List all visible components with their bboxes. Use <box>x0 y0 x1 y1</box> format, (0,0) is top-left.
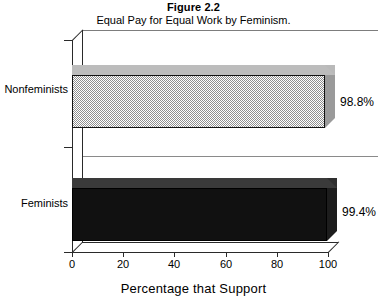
x-axis-label-20: 20 <box>103 258 143 270</box>
bar-feminists-front-face <box>72 188 327 241</box>
category-label-nonfeminists: Nonfeminists <box>2 83 68 95</box>
figure-chart: Figure 2.2 Equal Pay for Equal Work by F… <box>0 0 387 307</box>
plot-area: 98.8% 99.4% Nonfeminists Feminists 0 20 … <box>0 0 387 307</box>
x-axis-label-100: 100 <box>308 258 348 270</box>
bar-nonfeminists[interactable] <box>72 65 335 138</box>
x-axis-tick-100 <box>328 252 329 257</box>
bar-nonfeminists-top-face <box>72 65 335 75</box>
y-axis-tick-middle <box>64 147 72 148</box>
x-axis-label-40: 40 <box>154 258 194 270</box>
x-axis-tick-80 <box>277 252 278 257</box>
y-axis-tick-top <box>64 40 72 41</box>
bar-nonfeminists-side-face <box>325 75 335 128</box>
category-separator-line <box>82 156 378 157</box>
bar-value-label-feminists: 99.4% <box>342 205 376 219</box>
x-axis-tick-40 <box>174 252 175 257</box>
x-axis-line <box>72 252 328 253</box>
x-axis-label-60: 60 <box>206 258 246 270</box>
x-axis-tick-20 <box>123 252 124 257</box>
category-label-feminists: Feminists <box>2 197 68 209</box>
x-axis-tick-60 <box>226 252 227 257</box>
x-axis-label-0: 0 <box>52 258 92 270</box>
bar-value-label-nonfeminists: 98.8% <box>340 95 374 109</box>
bar-feminists[interactable] <box>72 178 337 251</box>
bar-feminists-side-face <box>327 188 337 241</box>
x-axis-label-80: 80 <box>257 258 297 270</box>
bar-feminists-top-face <box>72 178 337 188</box>
top-gridline <box>82 30 378 31</box>
x-axis-tick-0 <box>72 252 73 257</box>
y-axis-tick-bottom <box>64 252 72 253</box>
x-axis-title: Percentage that Support <box>0 281 387 296</box>
bar-nonfeminists-front-face <box>72 75 325 128</box>
